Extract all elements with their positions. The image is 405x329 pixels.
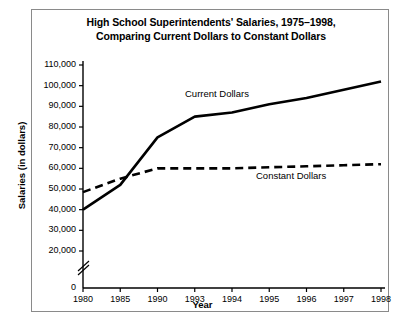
y-axis-tick-label: 70,000 (0, 142, 76, 152)
plot-area: Salaries (in dollars) Year 20,00030,0004… (0, 0, 405, 329)
y-axis-tick-label: 40,000 (0, 204, 76, 214)
y-axis-tick-label: 20,000 (0, 245, 76, 255)
y-axis-tick-label: 50,000 (0, 183, 76, 193)
series-label-constant-dollars: Constant Dollars (256, 170, 326, 181)
series-line-current-dollars (83, 82, 381, 210)
y-axis-tick-label: 60,000 (0, 162, 76, 172)
x-axis-tick-label: 1998 (359, 294, 403, 304)
y-axis-tick-label: 30,000 (0, 224, 76, 234)
y-axis-tick-label: 100,000 (0, 80, 76, 90)
series-label-current-dollars: Current Dollars (185, 88, 249, 99)
y-axis-tick-label: 80,000 (0, 121, 76, 131)
y-axis-tick-label: 90,000 (0, 100, 76, 110)
y-axis-zero-label: 0 (0, 282, 76, 292)
y-axis-tick-label: 110,000 (0, 59, 76, 69)
series-line-constant-dollars (83, 164, 381, 192)
